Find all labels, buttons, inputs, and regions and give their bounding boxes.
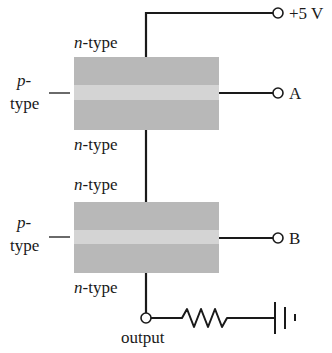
bottom-n-type-label-lower: n-type: [74, 278, 117, 297]
top-p-label-line1: p-: [16, 71, 32, 90]
bottom-block-p-band: [74, 230, 219, 244]
ground-icon: [275, 302, 295, 334]
top-block-p-band: [74, 85, 219, 100]
input-a-label: A: [289, 84, 302, 103]
supply-label: +5 V: [289, 4, 324, 23]
bottom-n-type-label-upper: n-type: [74, 175, 117, 194]
supply-terminal-icon: [273, 8, 283, 18]
output-label: output: [121, 328, 165, 347]
bottom-p-label-line1: p-: [16, 213, 32, 232]
input-b-label: B: [289, 229, 300, 248]
input-a-terminal-icon: [273, 88, 283, 98]
resistor-icon: [151, 309, 274, 327]
transistor-top: [74, 57, 219, 130]
output-terminal-icon: [141, 313, 151, 323]
top-n-type-label-upper: n-type: [74, 33, 117, 52]
input-b-terminal-icon: [273, 233, 283, 243]
top-n-type-label-lower: n-type: [74, 135, 117, 154]
supply-wire: [146, 8, 283, 57]
top-p-label-line2: type: [10, 94, 39, 113]
transistor-bottom: [74, 202, 219, 273]
bottom-p-label-line2: type: [10, 236, 39, 255]
circuit-svg: +5 V n-type n-type p- type A n-type n-ty…: [0, 0, 332, 353]
circuit-diagram: +5 V n-type n-type p- type A n-type n-ty…: [0, 0, 332, 353]
